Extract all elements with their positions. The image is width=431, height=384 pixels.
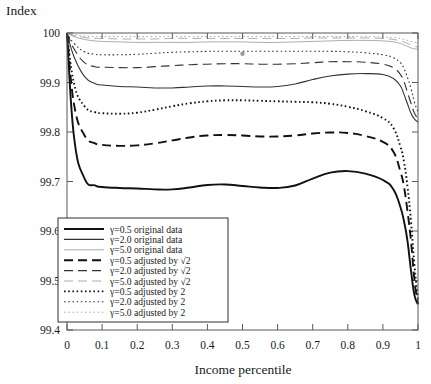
x-tick-label: 1 [415,339,421,351]
x-tick-label: 0.9 [376,339,391,351]
x-tick-label: 0.8 [341,339,356,351]
y-tick-label: 99.5 [40,275,60,287]
y-tick-label: 99.7 [40,176,60,188]
x-tick-label: 0 [64,339,70,351]
x-tick-label: 0.5 [235,339,250,351]
y-tick-label: 99.8 [40,126,60,138]
y-tick-label: 99.6 [40,225,60,237]
x-axis-title: Income percentile [194,362,291,377]
x-tick-label: 0.6 [270,339,285,351]
legend-item-label: γ=5.0 original data [109,244,183,255]
legend-item-label: γ=0.5 adjusted by 2 [109,286,185,297]
x-tick-label: 0.4 [200,339,215,351]
x-tick-label: 0.1 [95,339,110,351]
legend-item-label: γ=5.0 adjusted by 2 [109,307,185,318]
legend-item-label: γ=0.5 adjusted by √2 [109,255,191,266]
x-tick-label: 0.3 [165,339,180,351]
annotations-group [240,52,244,56]
x-tick-label: 0.7 [306,339,321,351]
y-axis-title: Index [6,3,37,18]
legend-item-label: γ=2.0 original data [109,234,183,245]
legend-item-label: γ=0.5 original data [109,224,183,235]
index-vs-income-percentile-chart: Index 99.499.599.699.799.899.9100 00.10.… [0,0,431,384]
chart-background [0,0,431,384]
legend-item-label: γ=5.0 adjusted by √2 [109,276,191,287]
y-tick-label: 99.4 [40,324,60,336]
legend-item-label: γ=2.0 adjusted by 2 [109,296,185,307]
y-tick-label: 99.9 [40,77,60,89]
x-tick-label: 0.2 [130,339,145,351]
legend-item-label: γ=2.0 adjusted by √2 [109,265,191,276]
y-tick-label: 100 [43,27,61,39]
chart-legend: γ=0.5 original dataγ=2.0 original dataγ=… [58,218,228,322]
stray-marker-dot [240,52,244,56]
